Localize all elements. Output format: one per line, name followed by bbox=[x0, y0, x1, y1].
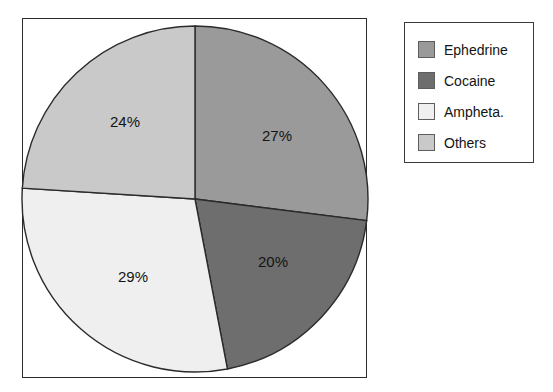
plot-area-frame bbox=[22, 18, 367, 378]
legend-swatch-icon bbox=[418, 103, 435, 120]
legend-item-label: Others bbox=[444, 136, 486, 150]
legend-box: Ephedrine Cocaine Ampheta. Others bbox=[404, 22, 534, 163]
legend-item-label: Cocaine bbox=[444, 74, 495, 88]
pie-chart-figure: 27%20%29%24% Ephedrine Cocaine Ampheta. … bbox=[0, 0, 553, 392]
legend-item-ampheta[interactable]: Ampheta. bbox=[418, 96, 533, 127]
legend-item-ephedrine[interactable]: Ephedrine bbox=[418, 34, 533, 65]
legend-swatch-icon bbox=[418, 41, 435, 58]
legend-item-others[interactable]: Others bbox=[418, 127, 533, 158]
legend-item-label: Ephedrine bbox=[444, 43, 508, 57]
legend-swatch-icon bbox=[418, 72, 435, 89]
legend-item-label: Ampheta. bbox=[444, 105, 504, 119]
legend-swatch-icon bbox=[418, 134, 435, 151]
legend-item-cocaine[interactable]: Cocaine bbox=[418, 65, 533, 96]
